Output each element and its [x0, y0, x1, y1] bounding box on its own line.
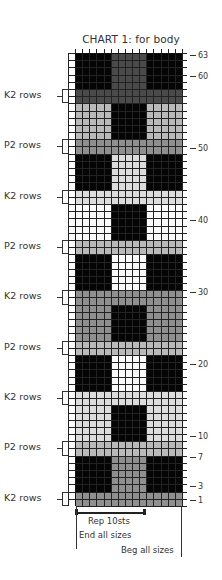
stitch-cell	[140, 61, 147, 68]
stitch-cell	[83, 255, 90, 262]
stitch-cell	[140, 471, 147, 478]
stitch-cell	[119, 263, 126, 270]
stitch-cell	[126, 493, 133, 500]
stitch-cell	[90, 176, 97, 183]
stitch-cell	[140, 140, 147, 147]
stitch-cell	[169, 277, 176, 284]
stitch-cell	[162, 306, 169, 313]
edge-cell	[68, 233, 75, 240]
stitch-cell	[162, 298, 169, 305]
stitch-cell	[140, 363, 147, 370]
stitch-cell	[147, 370, 154, 377]
row-type-label: P2 rows	[4, 139, 41, 150]
row-tick	[182, 190, 187, 191]
stitch-cell	[119, 464, 126, 471]
stitch-cell	[147, 126, 154, 133]
edge-cell	[68, 161, 75, 168]
stitch-cell	[76, 493, 83, 500]
label-dash	[190, 148, 196, 149]
stitch-cell	[147, 97, 154, 104]
stitch-cell	[119, 147, 126, 154]
stitch-cell	[90, 421, 97, 428]
stitch-cell	[140, 270, 147, 277]
stitch-cell	[83, 406, 90, 413]
stitch-cell	[162, 176, 169, 183]
stitch-cell	[90, 363, 97, 370]
stitch-cell	[147, 392, 154, 399]
stitch-cell	[90, 298, 97, 305]
row-tick	[182, 132, 187, 133]
stitch-cell	[162, 435, 169, 442]
stitch-cell	[147, 464, 154, 471]
stitch-cell	[112, 176, 119, 183]
stitch-cell	[119, 378, 126, 385]
row-tick	[182, 326, 187, 327]
stitch-cell	[76, 76, 83, 83]
edge-cell	[68, 182, 75, 189]
edge-cell	[68, 499, 75, 506]
stitch-cell	[154, 298, 161, 305]
stitch-cell	[76, 356, 83, 363]
row-type-label: P2 rows	[4, 441, 41, 452]
beg-all-sizes-line	[181, 507, 182, 557]
stitch-cell	[90, 320, 97, 327]
stitch-cell	[154, 68, 161, 75]
stitch-cell	[133, 349, 140, 356]
stitch-cell	[133, 212, 140, 219]
stitch-cell	[133, 183, 140, 190]
bracket-stub	[57, 146, 62, 147]
stitch-cell	[126, 334, 133, 341]
stitch-cell	[105, 313, 112, 320]
stitch-cell	[169, 61, 176, 68]
row-tick	[182, 463, 187, 464]
stitch-cell	[83, 169, 90, 176]
stitch-cell	[119, 140, 126, 147]
stitch-cell	[140, 241, 147, 248]
stitch-cell	[112, 104, 119, 111]
stitch-cell	[112, 449, 119, 456]
stitch-cell	[126, 406, 133, 413]
stitch-cell	[169, 104, 176, 111]
row-tick	[182, 470, 187, 471]
stitch-cell	[154, 284, 161, 291]
row-tick	[182, 175, 187, 176]
stitch-cell	[140, 234, 147, 241]
stitch-cell	[76, 277, 83, 284]
stitch-cell	[147, 198, 154, 205]
stitch-cell	[83, 104, 90, 111]
stitch-cell	[119, 212, 126, 219]
stitch-cell	[154, 356, 161, 363]
stitch-cell	[119, 234, 126, 241]
stitch-cell	[83, 500, 90, 507]
stitch-cell	[105, 155, 112, 162]
row-tick	[182, 247, 187, 248]
row-type-label: K2 rows	[4, 492, 42, 503]
stitch-cell	[76, 464, 83, 471]
stitch-cell	[126, 198, 133, 205]
stitch-cell	[126, 306, 133, 313]
stitch-cell	[76, 342, 83, 349]
stitch-cell	[76, 183, 83, 190]
stitch-cell	[90, 349, 97, 356]
stitch-cell	[169, 406, 176, 413]
stitch-cell	[105, 147, 112, 154]
edge-cell	[68, 333, 75, 340]
stitch-cell	[105, 212, 112, 219]
stitch-cell	[140, 219, 147, 226]
stitch-cell	[90, 140, 97, 147]
stitch-cell	[83, 162, 90, 169]
stitch-cell	[126, 435, 133, 442]
row-tick	[182, 398, 187, 399]
row-tick	[182, 276, 187, 277]
bracket-stub	[57, 398, 62, 399]
stitch-cell	[76, 327, 83, 334]
stitch-cell	[140, 334, 147, 341]
stitch-cell	[97, 241, 104, 248]
stitch-cell	[169, 428, 176, 435]
stitch-cell	[83, 291, 90, 298]
stitch-cell	[83, 270, 90, 277]
edge-cell	[68, 448, 75, 455]
edge-cell	[68, 484, 75, 491]
stitch-cell	[83, 133, 90, 140]
stitch-cell	[112, 349, 119, 356]
